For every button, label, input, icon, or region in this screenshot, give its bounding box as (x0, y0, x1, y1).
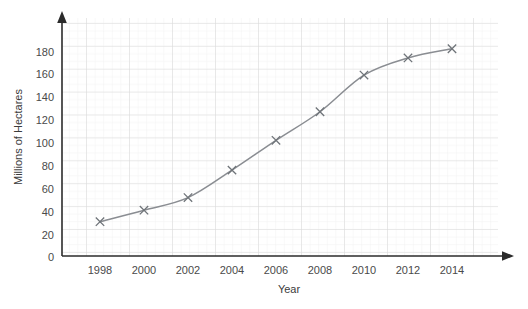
y-tick-label: 20 (42, 229, 54, 241)
y-tick-label: 60 (42, 183, 54, 195)
x-tick-label: 2014 (440, 264, 464, 276)
x-tick-label: 2004 (220, 264, 244, 276)
x-tick-labels: 1998 2000 2002 2004 2006 2008 2010 2012 … (88, 264, 464, 276)
y-tick-label: 180 (36, 46, 54, 58)
y-tick-label: 120 (36, 114, 54, 126)
x-axis-title: Year (278, 283, 301, 295)
x-tick-label: 2012 (396, 264, 420, 276)
y-tick-label: 40 (42, 206, 54, 218)
x-tick-label: 2010 (352, 264, 376, 276)
line-chart: 180 160 140 120 100 80 60 40 20 0 1998 2… (0, 0, 528, 309)
chart-canvas: 180 160 140 120 100 80 60 40 20 0 1998 2… (0, 0, 528, 309)
y-tick-label: 140 (36, 91, 54, 103)
x-tick-label: 2008 (308, 264, 332, 276)
x-tick-label: 2006 (264, 264, 288, 276)
x-tick-label: 2000 (132, 264, 156, 276)
y-tick-label: 160 (36, 68, 54, 80)
y-tick-label: 100 (36, 137, 54, 149)
y-tick-label: 80 (42, 160, 54, 172)
x-tick-label: 2002 (176, 264, 200, 276)
y-axis-title: Millions of Hectares (12, 89, 24, 185)
y-tick-label: 0 (48, 251, 54, 263)
x-tick-label: 1998 (88, 264, 112, 276)
